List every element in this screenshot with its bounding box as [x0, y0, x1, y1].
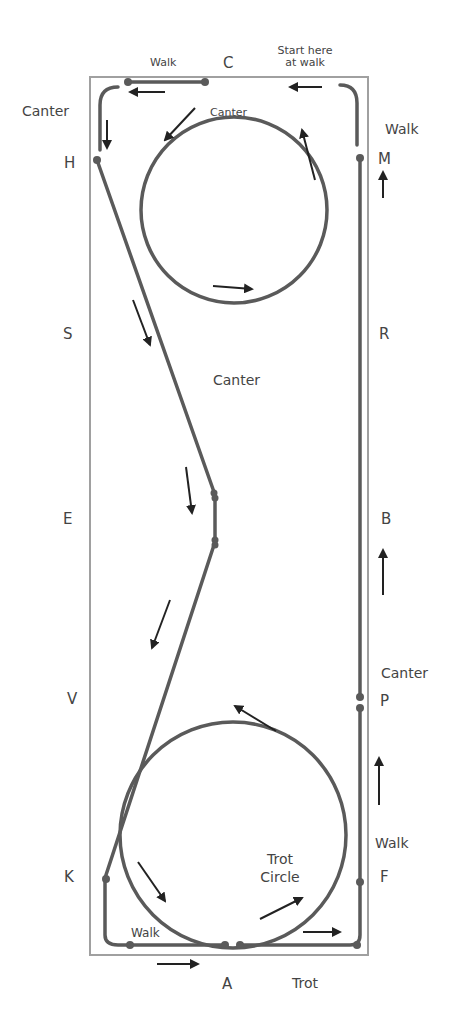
label-left-canter: Canter	[22, 103, 69, 119]
marker-r: R	[379, 325, 389, 343]
label-right-walk-top: Walk	[385, 121, 419, 137]
marker-c: C	[223, 54, 233, 72]
track-start-corner	[340, 85, 357, 145]
arena-diagram	[0, 0, 474, 1014]
bottom-trot-circle	[120, 722, 346, 948]
arrow-top-circle-up	[302, 130, 315, 180]
diagonal-h-to-x	[97, 160, 214, 492]
marker-p: P	[380, 692, 389, 710]
marker-m: M	[378, 150, 391, 168]
label-trot-circle: Trot Circle	[250, 850, 310, 886]
arrow-bottom-circle-ne	[260, 898, 302, 919]
label-bottom-walk: Walk	[131, 926, 160, 940]
marker-a: A	[222, 975, 232, 993]
label-right-canter: Canter	[381, 665, 428, 681]
top-canter-circle	[141, 117, 327, 303]
label-top-circle-canter: Canter	[210, 106, 247, 119]
label-middle-canter: Canter	[213, 372, 260, 388]
track-f-to-a	[240, 885, 360, 945]
label-trot-line2: Circle	[250, 868, 310, 886]
track-k-to-a	[105, 880, 225, 945]
label-right-walk-bottom: Walk	[375, 835, 409, 851]
marker-b: B	[381, 510, 391, 528]
marker-e: E	[63, 510, 72, 528]
label-trot-line1: Trot	[250, 850, 310, 868]
marker-k: K	[64, 868, 74, 886]
arrow-top-circle-right	[213, 286, 252, 289]
marker-s: S	[63, 325, 73, 343]
arrow-bottom-circle-se	[138, 862, 165, 901]
label-bottom-trot: Trot	[292, 975, 318, 991]
marker-v: V	[67, 690, 77, 708]
marker-h: H	[64, 154, 75, 172]
arrow-diag-2	[186, 467, 192, 513]
arrow-diag-3	[152, 600, 170, 648]
label-top-walk: Walk	[150, 56, 176, 69]
marker-f: F	[380, 868, 389, 886]
label-start-line2: at walk	[270, 57, 340, 69]
label-start-here: Start here at walk	[270, 45, 340, 69]
arrow-bottom-circle-nw	[235, 706, 276, 731]
track-corner-to-h	[100, 87, 118, 150]
